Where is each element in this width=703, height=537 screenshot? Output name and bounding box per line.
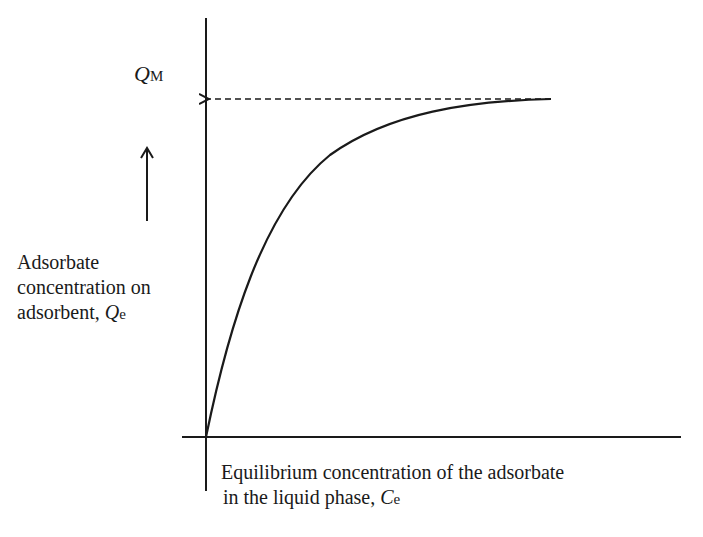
isotherm-curve [206, 99, 551, 437]
x-axis-label: Equilibrium concentration of the adsorba… [221, 460, 564, 512]
qm-label: QM [134, 61, 163, 89]
y-axis-label: Adsorbate concentration on adsorbent, Qe [17, 250, 151, 327]
